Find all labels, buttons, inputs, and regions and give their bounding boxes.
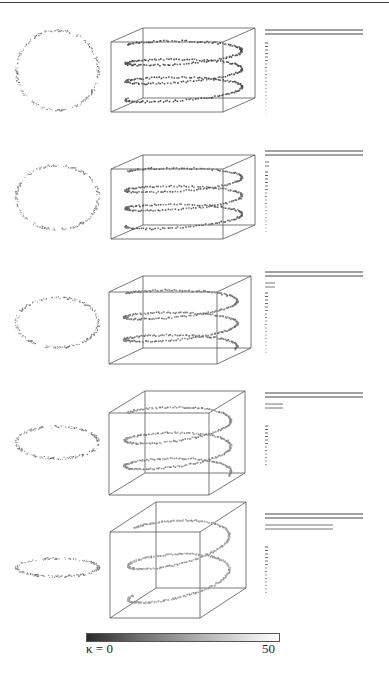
- figure-panels: [0, 0, 389, 679]
- eigenvalue-spectrum: [265, 393, 363, 465]
- figure-row-1: [15, 28, 363, 117]
- helix-embedding-curve: [123, 289, 239, 351]
- point-cloud-ellipse: [15, 296, 100, 349]
- embedding-box-3d: [110, 502, 246, 618]
- point-cloud-ellipse: [15, 29, 101, 112]
- eigenvalue-spectrum: [265, 514, 363, 593]
- figure-row-5: [15, 502, 363, 618]
- figure-row-2: [15, 151, 363, 239]
- colorbar-min-label: κ = 0: [86, 641, 113, 657]
- helix-embedding-curve: [123, 406, 232, 477]
- point-cloud-ellipse: [15, 557, 101, 578]
- helix-embedding-curve: [124, 167, 243, 230]
- colorbar-max-label: 50: [262, 641, 275, 657]
- eigenvalue-spectrum: [265, 151, 363, 232]
- figure-row-3: [15, 272, 363, 364]
- helix-embedding-curve: [124, 40, 243, 104]
- point-cloud-ellipse: [15, 165, 101, 231]
- point-cloud-ellipse: [15, 425, 100, 460]
- eigenvalue-spectrum: [265, 30, 363, 117]
- figure-row-4: [15, 391, 363, 495]
- kappa-colorbar: [86, 633, 280, 642]
- eigenvalue-spectrum: [265, 272, 363, 353]
- embedding-box-3d: [111, 155, 255, 239]
